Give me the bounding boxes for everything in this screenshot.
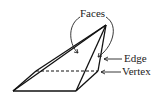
faces-label: Faces <box>80 7 105 19</box>
edge-label: Edge <box>124 52 147 64</box>
vertex-pointer <box>101 70 121 74</box>
polyhedron-diagram: Faces Edge Vertex <box>0 0 164 98</box>
edge-left-back <box>13 71 36 91</box>
vertex-label: Vertex <box>122 65 151 77</box>
faces-callout <box>71 17 114 57</box>
edge-bottom-right <box>76 71 98 91</box>
edge-pointer <box>104 57 122 61</box>
edge-right <box>98 25 106 71</box>
polyhedron-edges <box>13 25 106 91</box>
